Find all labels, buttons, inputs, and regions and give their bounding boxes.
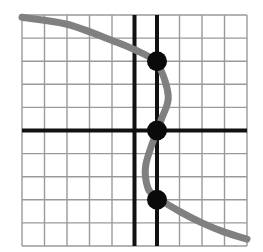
intersection-point	[147, 190, 167, 210]
intersection-point	[147, 51, 167, 71]
graph-figure	[0, 0, 263, 252]
intersection-point	[147, 121, 167, 141]
